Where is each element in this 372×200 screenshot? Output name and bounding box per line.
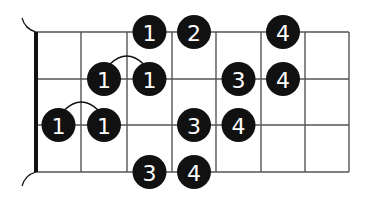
finger-number: 1 [97,114,111,139]
finger-number: 4 [232,114,246,139]
finger-dot: 1 [42,108,76,142]
finger-dot: 1 [87,62,121,96]
top-curl-icon [22,18,36,32]
finger-number: 4 [187,161,201,186]
finger-number: 2 [187,21,201,46]
finger-number: 1 [52,114,66,139]
nut-curls [22,18,36,186]
finger-dot: 4 [266,15,300,49]
finger-dot: 3 [133,155,167,189]
finger-dot: 1 [133,62,167,96]
finger-number: 3 [143,161,157,186]
finger-number: 3 [187,114,201,139]
fretboard-diagram: 1241134113434 [0,0,372,200]
finger-dot: 1 [133,15,167,49]
finger-number: 4 [276,21,290,46]
finger-dot: 1 [87,108,121,142]
finger-number: 1 [97,68,111,93]
finger-dot: 4 [222,108,256,142]
finger-dot: 3 [177,108,211,142]
bottom-curl-icon [22,172,36,186]
finger-dot: 4 [266,62,300,96]
finger-number: 3 [232,68,246,93]
finger-number: 4 [276,68,290,93]
finger-number: 1 [143,68,157,93]
finger-dot: 4 [177,155,211,189]
finger-number: 1 [143,21,157,46]
finger-dot: 2 [177,15,211,49]
finger-dot: 3 [222,62,256,96]
